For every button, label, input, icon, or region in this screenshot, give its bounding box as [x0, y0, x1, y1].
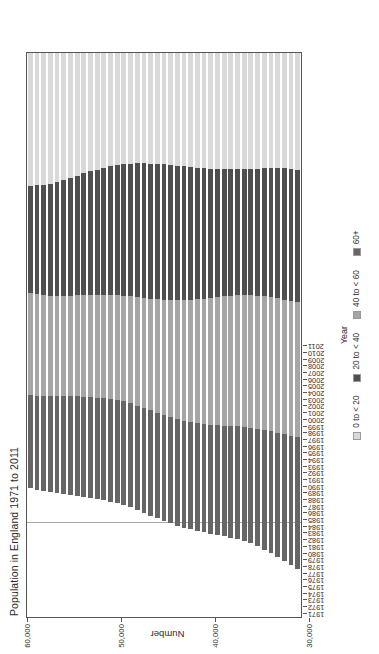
bar-segment — [75, 396, 80, 495]
bar-segment — [195, 299, 200, 423]
bar-row — [68, 53, 73, 495]
bar-row — [48, 53, 53, 492]
bar-segment — [282, 300, 287, 435]
bar-segment — [135, 297, 140, 405]
bar-segment — [35, 396, 40, 490]
bar-segment — [269, 297, 274, 431]
bar-segment — [248, 53, 253, 169]
bar-segment — [55, 296, 60, 397]
bar-segment — [248, 428, 253, 544]
bar-segment — [41, 185, 46, 295]
bar-segment — [242, 53, 247, 169]
bar-segment — [208, 298, 213, 425]
bar-segment — [275, 298, 280, 432]
bar-segment — [262, 430, 267, 550]
bar-segment — [228, 426, 233, 538]
bar-segment — [115, 53, 120, 165]
category-tick — [303, 379, 307, 380]
category-tick — [303, 392, 307, 393]
bar-segment — [195, 53, 200, 168]
legend-item[interactable]: 20 to < 40 — [352, 333, 361, 382]
bar-segment — [81, 397, 86, 497]
bar-segment — [222, 53, 227, 169]
bar-row — [115, 53, 120, 503]
category-tick-label: 2011 — [308, 342, 324, 351]
bar-segment — [28, 293, 33, 395]
bar-row — [121, 53, 126, 505]
bar-segment — [269, 431, 274, 553]
bar-segment — [35, 185, 40, 294]
chart-figure: Population in England 1971 to 2011 010,0… — [0, 0, 379, 654]
bar-segment — [162, 300, 167, 415]
bar-segment — [148, 410, 153, 515]
bar-row — [282, 53, 287, 561]
bar-row — [61, 53, 66, 494]
category-tick — [303, 566, 307, 567]
category-tick — [303, 459, 307, 460]
bar-segment — [128, 403, 133, 507]
bar-segment — [255, 296, 260, 429]
bar-segment — [68, 396, 73, 495]
legend-item[interactable]: 40 to < 60 — [352, 270, 361, 319]
bar-row — [88, 53, 93, 498]
legend-label: 20 to < 40 — [352, 333, 361, 370]
category-axis-title: Year — [339, 52, 349, 618]
bar-segment — [81, 173, 86, 295]
bar-segment — [275, 433, 280, 557]
bar-segment — [108, 295, 113, 399]
bar-segment — [88, 171, 93, 295]
bar-row — [95, 53, 100, 499]
bar-segment — [182, 421, 187, 528]
legend-swatch — [353, 432, 361, 440]
bar-segment — [121, 53, 126, 164]
category-tick — [303, 539, 307, 540]
bar-segment — [248, 169, 253, 295]
bar-segment — [208, 169, 213, 298]
bar-segment — [202, 424, 207, 532]
bar-segment — [35, 53, 40, 185]
category-tick — [303, 365, 307, 366]
legend-item[interactable]: 0 to < 20 — [352, 396, 361, 440]
bar-segment — [75, 176, 80, 296]
bar-segment — [95, 295, 100, 398]
bar-segment — [255, 53, 260, 169]
bar-segment — [175, 300, 180, 419]
bar-segment — [175, 419, 180, 526]
category-axis: 1971197219731974197519761977197819791980… — [303, 52, 347, 618]
bar-segment — [55, 53, 60, 182]
bar-segment — [142, 163, 147, 297]
category-tick — [303, 466, 307, 467]
bar-segment — [28, 186, 33, 293]
legend-label: 60+ — [352, 230, 361, 244]
bar-segment — [48, 296, 53, 397]
bar-segment — [168, 53, 173, 165]
bar-row — [228, 53, 233, 538]
bar-row — [188, 53, 193, 529]
category-tick — [303, 385, 307, 386]
legend-label: 0 to < 20 — [352, 396, 361, 428]
bar-segment — [235, 426, 240, 539]
bar-segment — [208, 53, 213, 169]
category-tick — [303, 479, 307, 480]
category-tick — [303, 352, 307, 353]
bar-segment — [121, 296, 126, 402]
bar-segment — [188, 167, 193, 300]
category-tick — [303, 432, 307, 433]
bar-segment — [195, 168, 200, 299]
legend-swatch — [353, 311, 361, 319]
bar-row — [255, 53, 260, 546]
bar-segment — [148, 299, 153, 411]
bar-segment — [182, 53, 187, 166]
category-tick — [303, 439, 307, 440]
bar-segment — [28, 53, 33, 186]
bar-segment — [295, 437, 300, 569]
category-tick — [303, 512, 307, 513]
legend-item[interactable]: 60+ — [352, 230, 361, 256]
bar-segment — [142, 408, 147, 513]
bar-segment — [168, 417, 173, 523]
bar-segment — [168, 165, 173, 300]
bar-segment — [142, 298, 147, 408]
category-tick — [303, 499, 307, 500]
bar-segment — [135, 53, 140, 163]
bar-segment — [248, 295, 253, 428]
